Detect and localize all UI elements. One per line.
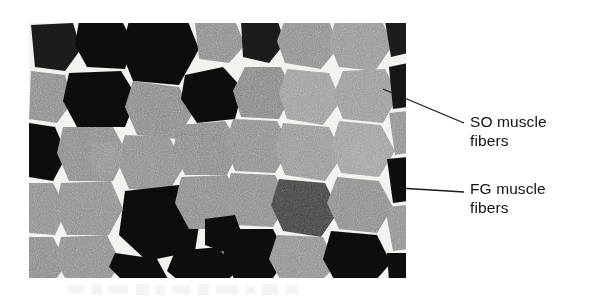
muscle-micrograph-image xyxy=(29,23,406,278)
leader-line-fg xyxy=(399,188,464,192)
micrograph-svg xyxy=(29,23,406,278)
fiber-mosaic xyxy=(29,23,406,278)
callout-label-so: SO muscle fibers xyxy=(470,112,547,150)
callout-fg-line1: FG muscle xyxy=(470,180,546,197)
callout-fg-line2: fibers xyxy=(470,198,546,217)
figure-root: SO muscle fibers FG muscle fibers xyxy=(0,0,594,304)
callout-so-line1: SO muscle xyxy=(470,113,547,130)
callout-so-line2: fibers xyxy=(470,131,547,150)
page-bleedthrough-artifact xyxy=(62,281,310,301)
callout-label-fg: FG muscle fibers xyxy=(470,179,546,217)
